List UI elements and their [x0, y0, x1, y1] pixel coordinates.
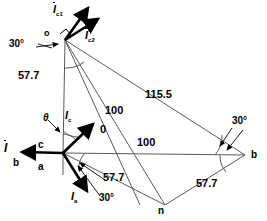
edge-label-o-a: 57.7: [18, 70, 39, 81]
vector-ic: [63, 124, 93, 153]
leader-theta: [48, 120, 60, 132]
arc-at-b-lower: [220, 155, 226, 172]
line-a-b: [63, 153, 245, 155]
line-o-a: [63, 40, 65, 153]
angle-label-right: 30°: [232, 116, 247, 126]
label-ia: Ia: [71, 191, 77, 204]
edge-label-a-ia-arc: 57.7: [103, 172, 124, 183]
edge-label-o-b: 115.5: [145, 89, 172, 100]
node-label-b-left: b: [13, 158, 19, 168]
label-ic: Ic: [65, 110, 71, 123]
node-label-n: n: [158, 206, 164, 216]
node-label-c: c: [38, 140, 44, 150]
angle-label-theta: θ: [43, 113, 49, 123]
label-ic1: Ic1: [53, 4, 63, 17]
angle-arcs: [63, 62, 226, 172]
label-ic-sub: c: [68, 117, 71, 123]
leader-30-right-b: [227, 130, 243, 150]
leader-577-bottomleft: [80, 163, 105, 180]
label-ic2: Ic2: [85, 30, 95, 43]
edge-label-o-n-secondary: 0: [100, 124, 106, 135]
label-ia-sub: a: [74, 198, 77, 204]
edge-label-o-n: 100: [105, 105, 123, 116]
angle-label-top-left: 30°: [9, 39, 24, 49]
node-label-b: b: [251, 150, 257, 160]
vector-i: [22, 152, 63, 153]
arc-at-a-lower: [79, 153, 85, 170]
edge-label-n-b: 57.7: [196, 178, 217, 189]
edge-label-a-b: 100: [137, 137, 155, 148]
phasor-diagram-canvas: Ic1 Ic2 o 30° 57.7 100 0 115.5 100 57.7 …: [0, 0, 267, 221]
diagram-svg: [0, 0, 267, 221]
label-i: I: [4, 142, 7, 154]
node-label-o: o: [44, 29, 50, 38]
label-ic1-sub: c1: [56, 11, 63, 17]
label-ic2-sub: c2: [88, 37, 95, 43]
construction-lines: [63, 40, 245, 205]
node-label-a: a: [38, 162, 44, 172]
angle-label-bottom-left: 30°: [99, 193, 114, 203]
